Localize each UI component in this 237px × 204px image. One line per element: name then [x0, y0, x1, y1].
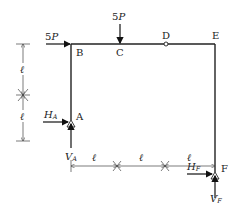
node-label-c: C [116, 47, 124, 58]
dim-label-h3: ℓ [187, 152, 191, 163]
hinge-d-icon [164, 42, 168, 46]
node-label-a: A [75, 111, 84, 122]
dim-label-v2: ℓ [20, 111, 24, 122]
dim-label-v1: ℓ [20, 64, 24, 75]
node-label-b: B [76, 47, 83, 58]
node-label-d: D [162, 30, 170, 41]
reaction-vf-label: VF [210, 193, 222, 204]
dim-label-h1: ℓ [92, 152, 96, 163]
vertical-dimension: ℓ ℓ [16, 44, 30, 141]
node-label-e: E [212, 30, 219, 41]
load-label-b: 5P [45, 31, 58, 42]
frame-diagram: 5P 5P B C D E A F HA VA HF VF ℓ ℓ [0, 0, 237, 204]
dim-label-h2: ℓ [139, 152, 143, 163]
reaction-ha-label: HA [43, 109, 58, 121]
load-label-c: 5P [112, 11, 125, 22]
node-label-f: F [221, 163, 228, 174]
